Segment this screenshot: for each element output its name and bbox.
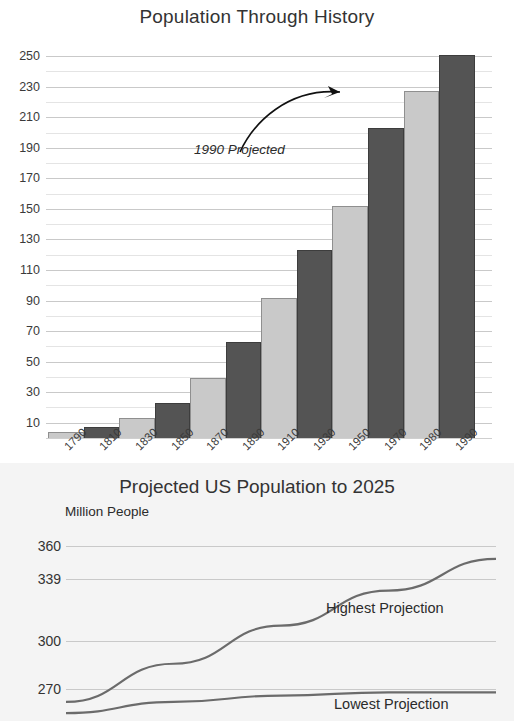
y-axis-tick-label: 110 xyxy=(20,263,40,277)
y-axis-tick-label: 300 xyxy=(38,633,61,649)
gridline-minor xyxy=(46,71,492,72)
y-axis-tick-label: 360 xyxy=(38,538,61,554)
y-axis-tick-label: 90 xyxy=(26,294,40,308)
bar-chart-title: Population Through History xyxy=(0,6,514,28)
y-axis-tick-label: 170 xyxy=(19,171,40,185)
y-axis-tick-label: 270 xyxy=(38,681,61,697)
y-axis-tick-label: 50 xyxy=(26,355,40,369)
y-axis-tick-label: 150 xyxy=(19,202,40,216)
bar-chart-plot-area: 1030507090110130150170190210230250 17901… xyxy=(46,44,492,438)
y-axis-tick-label: 190 xyxy=(19,141,40,155)
line-chart-panel: Projected US Population to 2025 Million … xyxy=(0,463,514,721)
bar-chart-panel: Population Through History 1030507090110… xyxy=(0,0,514,463)
line-chart-axis-caption: Million People xyxy=(65,504,149,519)
y-axis-tick-label: 250 xyxy=(19,49,40,63)
bar-1950 xyxy=(332,206,368,438)
line-series-highest-projection xyxy=(66,559,496,702)
line-chart-plot-area: 360339300270 xyxy=(66,527,496,721)
x-axis-tick-label: 1790 xyxy=(62,426,89,453)
y-axis-tick-label: 10 xyxy=(26,416,40,430)
y-axis-tick-label: 130 xyxy=(19,232,40,246)
bar-1980 xyxy=(404,91,440,438)
series-label-lowest: Lowest Projection xyxy=(334,696,448,712)
gridline-major: 250 xyxy=(46,56,492,57)
bar-1890 xyxy=(226,342,262,438)
y-axis-tick-label: 230 xyxy=(19,80,40,94)
bar-1910 xyxy=(261,298,297,438)
y-axis-tick-label: 210 xyxy=(19,110,40,124)
line-chart-series xyxy=(66,527,496,721)
y-axis-tick-label: 70 xyxy=(26,324,40,338)
bar-chart-annotation: 1990 Projected xyxy=(194,142,285,157)
y-axis-tick-label: 339 xyxy=(38,571,61,587)
series-label-highest: Highest Projection xyxy=(326,600,444,616)
bar-1930 xyxy=(297,250,333,438)
line-chart-title: Projected US Population to 2025 xyxy=(0,476,514,498)
bar-1990 xyxy=(439,55,475,438)
bar-1970 xyxy=(368,128,404,438)
y-axis-tick-label: 30 xyxy=(26,385,40,399)
